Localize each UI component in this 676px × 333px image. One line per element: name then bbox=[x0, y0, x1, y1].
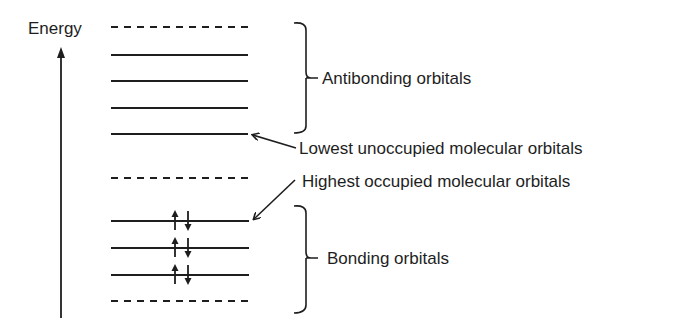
orbital-diagram bbox=[0, 0, 676, 333]
antibonding-label: Antibonding orbitals bbox=[322, 70, 471, 87]
energy-axis bbox=[57, 47, 65, 318]
antibonding-brace-icon bbox=[294, 23, 318, 133]
lumo-pointer-arrow-icon bbox=[253, 135, 296, 148]
energy-axis-label: Energy bbox=[28, 20, 82, 37]
antibonding-levels bbox=[111, 27, 248, 134]
lumo-label: Lowest unoccupied molecular orbitals bbox=[299, 140, 583, 157]
homo-label: Highest occupied molecular orbitals bbox=[302, 173, 570, 190]
bonding-label: Bonding orbitals bbox=[327, 250, 449, 267]
bonding-levels bbox=[111, 221, 249, 301]
axis-arrowhead-icon bbox=[57, 47, 65, 58]
bonding-brace-icon bbox=[294, 206, 318, 313]
homo-pointer-arrow-icon bbox=[254, 180, 295, 219]
